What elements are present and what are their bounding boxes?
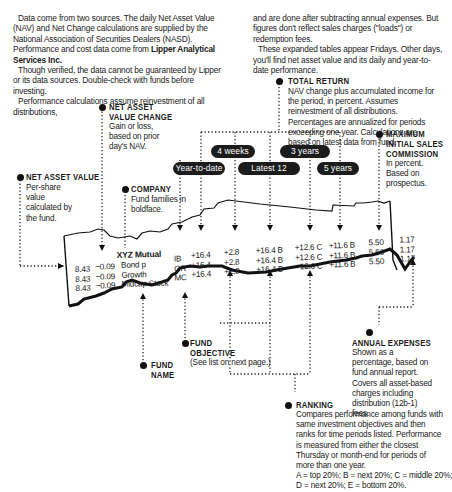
ranking-body: Compares performance among funds with sa…: [296, 410, 444, 492]
annual-expenses-title: ANNUAL EXPENSES: [352, 338, 431, 348]
max-sales-column: 5.50 5.50 5.50: [368, 238, 384, 267]
fund-name-column: Bond p Growth Midcap Stock: [121, 260, 168, 290]
nav-value: 8.43: [74, 274, 90, 284]
max-sales-value: 5.50: [369, 257, 384, 267]
fund-name-title-2: NAME: [151, 370, 174, 380]
annual-expenses-body: Shown as a percentage, based on fund ann…: [352, 348, 436, 419]
fund-name: Midcap Stock: [121, 279, 168, 290]
annual-expenses-value: 1.17: [400, 254, 415, 264]
five-years-value: +11.6 B: [329, 260, 356, 270]
nav-change-value: −0.09: [95, 281, 115, 291]
max-sales-value: 5.50: [368, 238, 383, 248]
four-weeks-value: +2.8: [224, 267, 240, 277]
objective-value: MC: [174, 273, 187, 283]
nav-column: 8.43 8.43 8.43: [74, 265, 91, 294]
nav-value: 8.43: [75, 284, 91, 294]
ytd-value: +16.4: [191, 260, 211, 270]
three-years-value: +12.6 C: [295, 243, 323, 253]
fund-objective-title-1: FUND: [190, 338, 212, 348]
annual-expenses-value: 1.17: [399, 235, 414, 245]
five-years-column: +11.6 B +11.6 B +11.6 B: [328, 241, 355, 270]
fund-objective-bullet-icon: [182, 340, 189, 347]
annual-expenses-column: 1.17 1.17 1.17: [399, 235, 415, 264]
three-years-column: +12.6 C +12.6 C +12.6 C: [295, 243, 323, 272]
ytd-value: +16.4: [191, 270, 211, 280]
nav-change-column: −0.09 −0.09 −0.09: [95, 262, 115, 291]
fund-objective-body: (See list on next page.): [190, 358, 280, 368]
five-years-value: +11.6 B: [328, 241, 355, 251]
nav-change-value: −0.09: [95, 262, 115, 272]
latest-12-months-column: +16.4 B +16.4 B +16.4 B: [256, 246, 284, 275]
four-weeks-value: +2.8: [224, 248, 240, 258]
latest-12-months-value: +16.4 B: [256, 265, 283, 275]
objective-value: GR: [174, 264, 187, 274]
nav-value: 8.43: [74, 265, 90, 275]
ytd-column: +16.4 +16.4 +16.4: [191, 251, 211, 280]
four-weeks-value: +2.8: [224, 257, 240, 267]
objective-value: IB: [174, 254, 187, 264]
ranking-bullet-icon: [285, 402, 292, 409]
ranking-legend-1: A = top 20%; B = next 20%; C = middle 20…: [296, 471, 444, 481]
nav-change-value: −0.09: [95, 272, 115, 282]
ranking-title: RANKING: [296, 400, 333, 410]
fund-objective-title-2: OBJECTIVE: [190, 348, 235, 358]
three-years-value: +12.6 C: [295, 262, 323, 272]
fund-name-title-1: FUND: [151, 360, 173, 370]
annual-expenses-value: 1.17: [400, 245, 415, 255]
objective-column: IB GR MC: [174, 254, 187, 283]
four-weeks-column: +2.8 +2.8 +2.8: [224, 248, 240, 277]
company-name: XYZ Mutual: [117, 250, 162, 261]
ranking-description: Compares performance among funds with sa…: [296, 410, 443, 470]
latest-12-months-value: +16.4 B: [256, 246, 283, 256]
fund-name-bullet-icon: [140, 362, 147, 369]
ytd-value: +16.4: [191, 251, 211, 261]
annual-expenses-bullet-icon: [366, 329, 373, 336]
max-sales-value: 5.50: [369, 248, 384, 258]
ranking-legend-2: D = next 20%; E = bottom 20%.: [296, 481, 444, 491]
